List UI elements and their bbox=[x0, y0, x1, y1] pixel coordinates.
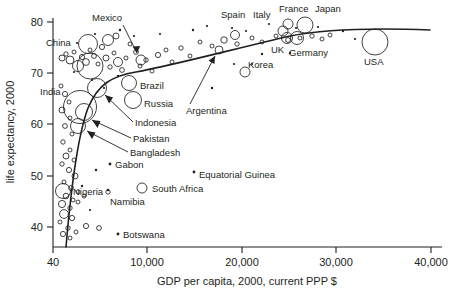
point-nigeria[interactable]: Nigeria bbox=[56, 184, 104, 199]
point-label-india: India bbox=[40, 86, 61, 97]
chart-canvas: 80 70 60 50 40 40 10,000 20,000 30,000 4… bbox=[0, 0, 452, 293]
point-brazil[interactable]: Brazil bbox=[122, 76, 164, 92]
point-label-japan: Japan bbox=[315, 3, 341, 14]
y-axis-ticks: 80 70 60 50 40 bbox=[31, 16, 53, 233]
point-botswana[interactable]: Botswana bbox=[117, 229, 166, 240]
point-label-equatorial-guinea: Equatorial Guinea bbox=[199, 169, 276, 180]
y-tick-label-60: 60 bbox=[31, 118, 43, 130]
point-label-germany: Germany bbox=[289, 47, 328, 58]
y-tick-label-40: 40 bbox=[31, 221, 43, 233]
y-tick-label-70: 70 bbox=[31, 67, 43, 79]
point-label-namibia: Namibia bbox=[110, 196, 146, 207]
point-label-pakistan: Pakistan bbox=[133, 133, 169, 144]
point-label-bangladesh: Bangladesh bbox=[130, 147, 180, 158]
point-label-mexico: Mexico bbox=[92, 12, 122, 23]
point-russia[interactable]: Russia bbox=[125, 92, 174, 110]
point-korea[interactable]: Korea bbox=[240, 59, 274, 77]
point-label-gabon: Gabon bbox=[115, 159, 144, 170]
x-tick-label-30000: 30,000 bbox=[319, 256, 353, 268]
labeled-data-points: China India Mexico Brazil bbox=[40, 3, 388, 240]
axis-lines bbox=[53, 18, 442, 247]
x-axis-ticks: 40 10,000 20,000 30,000 40,000 bbox=[47, 247, 448, 268]
point-label-indonesia: Indonesia bbox=[135, 117, 177, 128]
point-france[interactable]: France bbox=[279, 3, 309, 29]
point-label-china: China bbox=[46, 37, 72, 48]
point-label-usa: USA bbox=[364, 56, 384, 67]
point-spain[interactable]: Spain bbox=[221, 9, 245, 40]
point-label-russia: Russia bbox=[144, 98, 174, 109]
point-label-spain: Spain bbox=[221, 9, 245, 20]
pakistan-arrowhead bbox=[92, 120, 101, 128]
point-label-uk: UK bbox=[271, 44, 285, 55]
point-label-argentina: Argentina bbox=[186, 105, 227, 116]
point-equatorial-guinea[interactable]: Equatorial Guinea bbox=[193, 169, 276, 180]
x-tick-label-40000: 40,000 bbox=[414, 256, 448, 268]
y-tick-label-80: 80 bbox=[31, 16, 43, 28]
point-label-korea: Korea bbox=[248, 59, 274, 70]
point-south-africa[interactable]: South Africa bbox=[137, 183, 204, 194]
y-axis-title: life expectancy, 2000 bbox=[4, 81, 16, 184]
point-label-france: France bbox=[279, 3, 309, 14]
x-tick-label-20000: 20,000 bbox=[225, 256, 259, 268]
indonesia-arrowhead bbox=[105, 95, 113, 104]
point-label-south-africa: South Africa bbox=[152, 183, 204, 194]
scatter-chart: 80 70 60 50 40 40 10,000 20,000 30,000 4… bbox=[0, 0, 452, 293]
point-label-italy: Italy bbox=[253, 9, 271, 20]
point-usa[interactable]: USA bbox=[362, 29, 388, 67]
point-label-botswana: Botswana bbox=[123, 229, 165, 240]
x-tick-label-40: 40 bbox=[47, 256, 59, 268]
point-label-brazil: Brazil bbox=[140, 80, 164, 91]
y-tick-label-50: 50 bbox=[31, 170, 43, 182]
point-label-nigeria: Nigeria bbox=[73, 186, 104, 197]
point-gabon[interactable]: Gabon bbox=[109, 159, 144, 170]
point-mexico[interactable]: Mexico bbox=[92, 12, 146, 65]
x-tick-label-10000: 10,000 bbox=[130, 256, 164, 268]
x-axis-title: GDP per capita, 2000, current PPP $ bbox=[157, 275, 337, 287]
